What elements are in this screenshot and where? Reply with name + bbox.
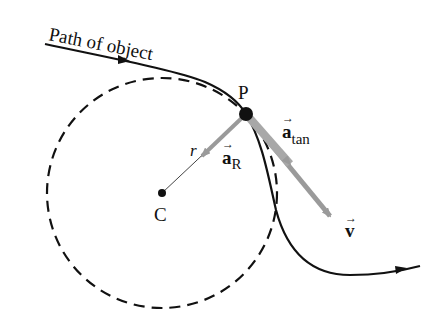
center-c-label: C <box>154 204 167 225</box>
radius-label: r <box>190 141 197 160</box>
arrow-over-icon: → <box>222 137 234 151</box>
arrow-over-icon: → <box>345 211 357 225</box>
point-p <box>239 107 253 121</box>
path-label: Path of object <box>47 23 155 64</box>
motion-diagram: Path of object P C r aR → atan → v → <box>0 0 446 329</box>
arrow-over-icon: → <box>282 111 294 125</box>
point-p-label: P <box>238 82 249 103</box>
point-c <box>158 189 166 197</box>
